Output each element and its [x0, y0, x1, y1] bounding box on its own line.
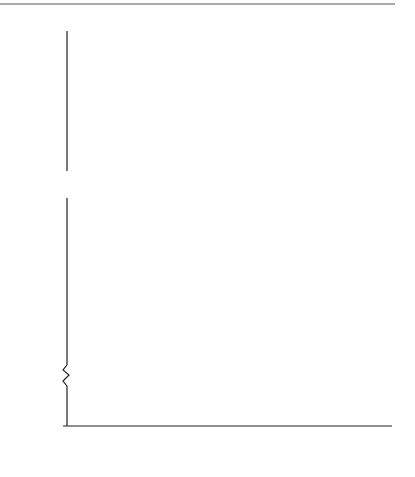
chart-figure — [0, 0, 415, 477]
bottom-panel — [0, 0, 392, 426]
top-panel — [0, 0, 67, 171]
axis-break-icon — [63, 365, 69, 386]
